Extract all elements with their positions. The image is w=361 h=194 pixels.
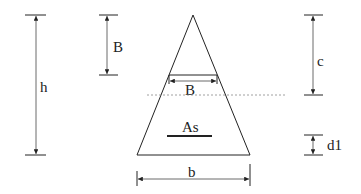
inner-width-label: B xyxy=(185,82,195,98)
steel-area-label: As xyxy=(182,119,199,135)
cover-label: d1 xyxy=(327,137,342,153)
b-vertical-label: B xyxy=(113,39,123,55)
section-diagram: h B B As b c d1 xyxy=(0,0,361,194)
neutral-depth-label: c xyxy=(317,53,324,69)
base-width-label: b xyxy=(188,164,196,180)
height-label: h xyxy=(40,79,48,95)
cover-dimension xyxy=(304,135,323,155)
